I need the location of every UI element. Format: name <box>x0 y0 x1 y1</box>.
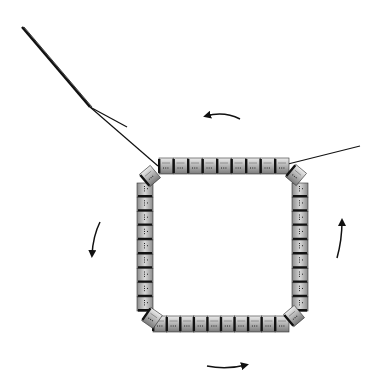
bead <box>260 158 275 174</box>
bead <box>233 316 248 332</box>
bead <box>292 212 308 227</box>
thread-group <box>22 27 360 166</box>
bead <box>202 158 217 174</box>
bead <box>247 316 262 332</box>
bead <box>220 316 235 332</box>
working-thread <box>90 107 158 166</box>
bead <box>137 269 153 284</box>
bead <box>274 158 289 174</box>
bead <box>179 316 194 332</box>
needle-thread <box>22 27 90 107</box>
bead <box>206 316 221 332</box>
bead <box>137 283 153 298</box>
bead <box>245 158 260 174</box>
bead <box>292 240 308 255</box>
exit-thread <box>288 146 360 164</box>
arrow-left-down-icon <box>92 222 100 255</box>
bead <box>292 254 308 269</box>
arrow-right-up-icon <box>337 221 342 258</box>
bead <box>216 158 231 174</box>
bead <box>137 226 153 241</box>
bead <box>292 269 308 284</box>
bead <box>193 316 208 332</box>
bead <box>292 226 308 241</box>
bead <box>292 183 308 198</box>
bead <box>137 254 153 269</box>
arrow-top-left-icon <box>206 114 240 119</box>
bead <box>137 197 153 212</box>
bead <box>137 212 153 227</box>
bead <box>166 316 181 332</box>
bead <box>187 158 202 174</box>
bead <box>173 158 188 174</box>
beading-diagram <box>0 0 379 386</box>
bead-ring <box>137 158 308 332</box>
bead <box>260 316 275 332</box>
tail-thread <box>90 107 127 127</box>
bead <box>292 197 308 212</box>
bead <box>137 240 153 255</box>
bead <box>158 158 173 174</box>
diagram-canvas <box>0 0 379 386</box>
needle-thread-inner <box>24 27 92 107</box>
bead <box>231 158 246 174</box>
bead <box>292 283 308 298</box>
arrow-bottom-right-icon <box>207 365 246 368</box>
